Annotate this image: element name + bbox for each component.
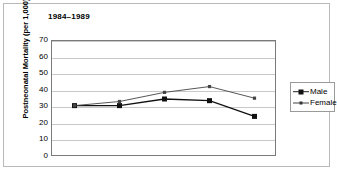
y-axis-tick-label: 10 [39,135,48,143]
square-marker-icon [299,89,304,94]
y-axis-tick-label: 60 [39,53,48,61]
series-line-female [75,87,255,106]
data-point-marker [162,97,167,102]
plot-area [51,40,276,156]
chart-legend: MaleFemale [290,82,335,112]
legend-item-label: Male [309,87,327,96]
chart-outer-frame: 1984–1989 Postneonatal Mortality (per 1,… [3,3,330,167]
data-point-marker [252,114,257,119]
small-square-marker [293,98,309,107]
filled-square-marker [293,87,309,96]
data-point-marker [207,98,212,103]
square-marker-icon [300,101,303,104]
chart-title: 1984–1989 [48,12,90,21]
y-axis-tick-labels: 706050403020100 [28,34,48,162]
data-point-marker [253,97,256,100]
data-point-marker [117,103,122,108]
y-axis-tick-label: 40 [39,86,48,94]
data-point-marker [118,100,121,103]
y-axis-tick-label: 30 [39,102,48,110]
y-axis-tick-label: 70 [39,36,48,44]
data-point-marker [163,91,166,94]
legend-item-female[interactable]: Female [293,97,332,108]
plot-svg [52,41,277,157]
legend-item-label: Female [309,98,337,107]
data-point-marker [73,104,76,107]
y-axis-tick-label: 50 [39,69,48,77]
data-point-marker [208,85,211,88]
y-axis-tick-label: 0 [44,152,48,160]
series-line-male [75,99,255,116]
y-axis-tick-label: 20 [39,119,48,127]
legend-item-male[interactable]: Male [293,86,332,97]
